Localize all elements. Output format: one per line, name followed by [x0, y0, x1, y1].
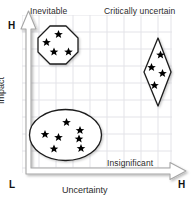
cluster-insignificant: [30, 110, 102, 161]
quadrant-label-critically-uncertain: Critically uncertain: [104, 7, 175, 16]
scenario-matrix-chart: Inevitable Critically uncertain Insignif…: [0, 0, 194, 198]
chart-canvas: [0, 0, 194, 198]
cluster-inevitable: [38, 26, 78, 64]
y-axis-title: Impact: [0, 77, 6, 104]
x-axis-title: Uncertainty: [62, 186, 108, 195]
x-axis-high-label: H: [178, 180, 185, 190]
quadrant-label-inevitable: Inevitable: [30, 7, 67, 16]
quadrant-label-insignificant: Insignificant: [107, 159, 153, 168]
ellipse-outline: [30, 110, 102, 161]
y-axis-high-label: H: [8, 21, 15, 31]
y-axis-low-label: L: [9, 180, 15, 190]
